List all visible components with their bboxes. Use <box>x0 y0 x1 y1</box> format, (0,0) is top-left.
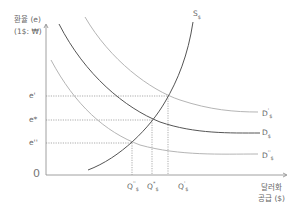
exchange-rate-diagram <box>0 0 304 209</box>
label-s-sub: $ <box>198 14 201 20</box>
guide-lines <box>46 96 168 175</box>
tick-q-star: Q*$ <box>147 181 159 192</box>
x-axis-label-line2: 공급 ($) <box>258 193 285 204</box>
label-d-dprime-sub: $ <box>271 155 274 161</box>
y-axis-label: 환율 (e) (1$: ₩) <box>14 14 42 38</box>
tick-e-dprime: e'' <box>29 139 38 147</box>
tick-q-prime-sub: $ <box>185 186 188 192</box>
tick-q-dprime-sub: $ <box>136 186 139 192</box>
demand-curve-d-dprime <box>51 60 258 154</box>
tick-e-star: e* <box>29 116 37 124</box>
label-d-prime: D'$ <box>262 108 272 119</box>
demand-curve-d-prime <box>85 17 258 112</box>
label-d-dprime: D''$ <box>262 150 274 161</box>
tick-q-prime: Q'$ <box>178 181 188 192</box>
y-axis-label-line1: 환율 (e) <box>14 14 42 26</box>
label-d: D$ <box>262 129 271 139</box>
origin-label: 0 <box>33 168 40 179</box>
x-axis-label-line1: 달러화 <box>258 182 285 193</box>
tick-q-star-sub: $ <box>155 186 158 192</box>
label-s: S$ <box>193 10 201 20</box>
y-axis-label-line2: (1$: ₩) <box>14 26 42 38</box>
label-d-prime-sub: $ <box>269 113 272 119</box>
tick-q-dprime: Q''$ <box>127 181 139 192</box>
label-d-sub: $ <box>268 133 271 139</box>
tick-e-prime: e' <box>29 92 36 100</box>
demand-curve-d <box>59 24 260 133</box>
x-axis-label: 달러화 공급 ($) <box>258 182 285 204</box>
